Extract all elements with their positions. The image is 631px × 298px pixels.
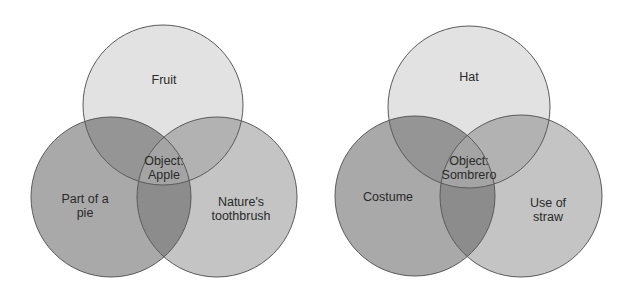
label-use-of-straw: Use of straw [530, 196, 566, 224]
label-part-of-pie: Part of a pie [61, 192, 108, 220]
venn-canvas [0, 0, 631, 298]
label-object-apple: Object: Apple [144, 154, 184, 182]
label-part-of-pie-line2: pie [61, 206, 108, 220]
label-fruit: Fruit [152, 73, 177, 87]
label-object-sombrero-line1: Object: [442, 154, 497, 168]
label-hat: Hat [459, 70, 478, 84]
label-natures-toothbrush-line1: Nature's [211, 195, 270, 209]
label-use-of-straw-line1: Use of [530, 196, 566, 210]
label-object-sombrero-line2: Sombrero [442, 168, 497, 182]
apple-venn-diagram [31, 25, 297, 277]
sombrero-venn-diagram [335, 26, 602, 277]
label-object-sombrero: Object: Sombrero [442, 154, 497, 182]
label-object-apple-line1: Object: [144, 154, 184, 168]
label-natures-toothbrush: Nature's toothbrush [211, 195, 270, 223]
label-object-apple-line2: Apple [144, 168, 184, 182]
label-natures-toothbrush-line2: toothbrush [211, 209, 270, 223]
label-costume: Costume [363, 190, 413, 204]
label-part-of-pie-line1: Part of a [61, 192, 108, 206]
label-use-of-straw-line2: straw [530, 210, 566, 224]
